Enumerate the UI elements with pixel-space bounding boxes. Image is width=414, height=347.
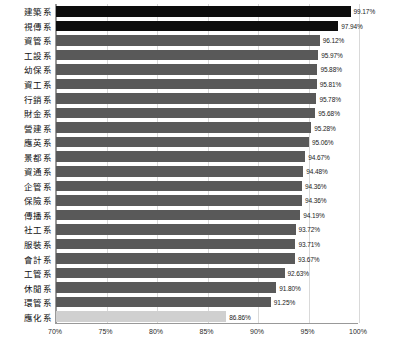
category-label: 工管系 xyxy=(0,266,52,281)
bar xyxy=(56,137,309,147)
bar-value-label: 94.67% xyxy=(308,153,329,160)
category-label: 休閒系 xyxy=(0,280,52,295)
bar xyxy=(56,297,271,307)
category-label: 資工系 xyxy=(0,77,52,92)
bar-row: 94.67% xyxy=(56,151,358,161)
bar xyxy=(56,6,351,16)
bar-row: 94.36% xyxy=(56,195,358,205)
category-label: 服裝系 xyxy=(0,237,52,252)
bar xyxy=(56,268,285,278)
bar-row: 93.67% xyxy=(56,253,358,263)
bar xyxy=(56,224,296,234)
bar-value-label: 99.17% xyxy=(354,8,375,15)
category-label: 資通系 xyxy=(0,164,52,179)
category-label: 環管系 xyxy=(0,295,52,310)
bar-row: 95.78% xyxy=(56,93,358,103)
bar-row: 93.72% xyxy=(56,224,358,234)
bar xyxy=(56,181,302,191)
bar xyxy=(56,64,317,74)
x-tick-label: 95% xyxy=(300,328,314,335)
bar-row: 95.97% xyxy=(56,50,358,60)
bar-row: 96.12% xyxy=(56,35,358,45)
bar-row: 95.88% xyxy=(56,64,358,74)
bar-row: 99.17% xyxy=(56,6,358,16)
category-label: 建築系 xyxy=(0,4,52,19)
x-tick-label: 75% xyxy=(98,328,112,335)
bar xyxy=(56,108,315,118)
bar-value-label: 95.81% xyxy=(320,80,341,87)
category-label: 保險系 xyxy=(0,193,52,208)
bar-value-label: 93.72% xyxy=(299,226,320,233)
bar-row: 91.25% xyxy=(56,297,358,307)
bar-value-label: 95.78% xyxy=(319,95,340,102)
bar xyxy=(56,210,300,220)
bar-value-label: 95.68% xyxy=(318,110,339,117)
plot-area: 99.17%97.94%96.12%95.97%95.88%95.81%95.7… xyxy=(55,4,358,324)
category-label: 社工系 xyxy=(0,222,52,237)
x-tick-label: 90% xyxy=(250,328,264,335)
bar xyxy=(56,122,311,132)
bar-value-label: 94.36% xyxy=(305,182,326,189)
x-tick-label: 70% xyxy=(48,328,62,335)
bar-value-label: 94.19% xyxy=(303,211,324,218)
bar-value-label: 91.25% xyxy=(274,299,295,306)
bar-value-label: 95.06% xyxy=(312,139,333,146)
bar-value-label: 97.94% xyxy=(341,22,362,29)
category-label: 會計系 xyxy=(0,251,52,266)
bar-value-label: 94.36% xyxy=(305,197,326,204)
bar-value-label: 95.28% xyxy=(314,124,335,131)
x-axis: 70%75%80%85%90%95%100% xyxy=(55,326,358,346)
bar-row: 93.71% xyxy=(56,239,358,249)
bar-chart: 建築系視傳系資管系工設系幼保系資工系行銷系財金系營建系應英系景都系資通系企管系保… xyxy=(0,0,414,347)
bar-row: 92.63% xyxy=(56,268,358,278)
bar-row: 95.28% xyxy=(56,122,358,132)
bar xyxy=(56,282,276,292)
bar xyxy=(56,21,338,31)
gridline xyxy=(359,4,360,323)
bar xyxy=(56,195,302,205)
bar xyxy=(56,35,320,45)
bar xyxy=(56,239,295,249)
bar-value-label: 96.12% xyxy=(323,37,344,44)
bar xyxy=(56,311,226,321)
bar-row: 94.19% xyxy=(56,210,358,220)
bar-value-label: 92.63% xyxy=(288,270,309,277)
category-label: 財金系 xyxy=(0,106,52,121)
category-label: 營建系 xyxy=(0,120,52,135)
category-axis: 建築系視傳系資管系工設系幼保系資工系行銷系財金系營建系應英系景都系資通系企管系保… xyxy=(0,4,52,324)
x-tick-label: 100% xyxy=(349,328,367,335)
bar-value-label: 93.71% xyxy=(298,240,319,247)
category-label: 景都系 xyxy=(0,149,52,164)
bar-value-label: 91.80% xyxy=(279,284,300,291)
x-tick-label: 85% xyxy=(199,328,213,335)
bar-row: 95.06% xyxy=(56,137,358,147)
bar xyxy=(56,50,318,60)
bar-value-label: 86.86% xyxy=(229,313,250,320)
category-label: 應化系 xyxy=(0,309,52,324)
category-label: 資管系 xyxy=(0,33,52,48)
category-label: 企管系 xyxy=(0,179,52,194)
bar-row: 86.86% xyxy=(56,311,358,321)
bar xyxy=(56,166,303,176)
bar-value-label: 93.67% xyxy=(298,255,319,262)
bar-value-label: 94.48% xyxy=(306,168,327,175)
bar-row: 95.68% xyxy=(56,108,358,118)
bar xyxy=(56,93,316,103)
bar-row: 97.94% xyxy=(56,21,358,31)
bar-row: 95.81% xyxy=(56,79,358,89)
x-tick-label: 80% xyxy=(149,328,163,335)
bar xyxy=(56,253,295,263)
bar xyxy=(56,151,305,161)
bar xyxy=(56,79,317,89)
bar-row: 91.80% xyxy=(56,282,358,292)
category-label: 應英系 xyxy=(0,135,52,150)
bar-value-label: 95.88% xyxy=(320,66,341,73)
category-label: 工設系 xyxy=(0,48,52,63)
bar-row: 94.36% xyxy=(56,181,358,191)
category-label: 傳播系 xyxy=(0,208,52,223)
category-label: 行銷系 xyxy=(0,91,52,106)
category-label: 視傳系 xyxy=(0,19,52,34)
bar-row: 94.48% xyxy=(56,166,358,176)
category-label: 幼保系 xyxy=(0,62,52,77)
bar-value-label: 95.97% xyxy=(321,51,342,58)
